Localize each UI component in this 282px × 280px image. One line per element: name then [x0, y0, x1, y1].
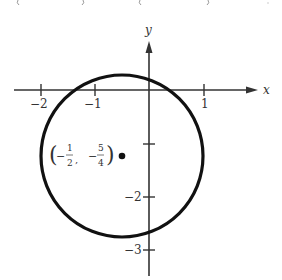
svg-text:2: 2: [67, 158, 73, 168]
x-axis-arrow-icon: [246, 87, 258, 94]
top-fragment-marks: [17, 0, 268, 5]
svg-text:1: 1: [67, 143, 73, 153]
x-axis: x −2 −1 1: [14, 83, 270, 111]
x-axis-label: x: [263, 83, 270, 97]
svg-text:,: ,: [75, 154, 78, 165]
x-tick-label-neg1: −1: [84, 97, 102, 111]
svg-text:): ): [106, 142, 115, 167]
svg-text:−: −: [88, 150, 97, 163]
x-tick-label-1: 1: [201, 97, 209, 111]
svg-text:5: 5: [98, 143, 104, 153]
svg-text:−: −: [56, 150, 65, 163]
center-label: ( − 1 2 , − 5 4 ): [49, 142, 115, 168]
y-tick-label-neg2: −2: [124, 190, 142, 204]
svg-text:4: 4: [98, 158, 104, 168]
circle-figure: x −2 −1 1 y −2 −3 ( − 1 2 , − 5 4 ): [0, 0, 282, 280]
y-axis-label: y: [144, 23, 152, 37]
y-axis-arrow-icon: [146, 41, 153, 53]
y-tick-label-neg3: −3: [124, 243, 142, 257]
center-point: [119, 153, 126, 160]
x-tick-label-neg2: −2: [30, 97, 48, 111]
